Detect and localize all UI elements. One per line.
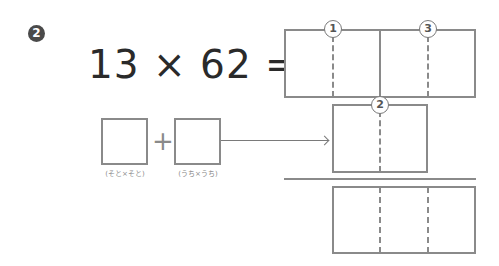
equation-text: 13 × 62 = [88, 40, 299, 90]
inner-product-caption: (うち×うち) [169, 168, 227, 178]
marker-1-icon: 1 [324, 20, 342, 38]
outer-product-caption: (そと×そと) [96, 168, 154, 178]
arrow-right-icon [320, 136, 330, 146]
inner-product-box[interactable] [174, 118, 221, 165]
outer-product-box[interactable] [101, 118, 148, 165]
marker-3-icon: 3 [419, 20, 437, 38]
plus-sign: + [152, 128, 174, 154]
top-box-divider [379, 30, 381, 97]
middle-box-dashed [379, 111, 381, 172]
marker-2-icon: 2 [371, 96, 389, 114]
result-box[interactable] [332, 186, 476, 254]
result-box-dashed-left [379, 187, 381, 253]
result-box-dashed-right [427, 187, 429, 253]
sum-line [284, 178, 476, 180]
top-box-dashed-right [427, 36, 429, 97]
problem-number-badge: 2 [28, 25, 45, 42]
arrow-line [221, 140, 329, 141]
top-box-dashed-left [332, 36, 334, 97]
